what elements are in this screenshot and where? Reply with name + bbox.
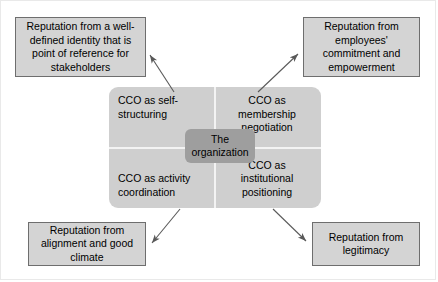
reputation-top-right-line3: commitment and: [323, 47, 401, 61]
the-organization-node: The organization: [185, 129, 255, 163]
reputation-bottom-left-line2: alignment and good: [41, 237, 133, 251]
reputation-top-right-line1: Reputation from: [323, 20, 401, 34]
reputation-bottom-right-line1: Reputation from: [329, 231, 404, 245]
quadrant-top-right-line1: CCO as: [248, 94, 285, 106]
reputation-top-left-line4: stakeholders: [27, 61, 135, 75]
organization-line2: organization: [191, 146, 248, 158]
reputation-top-left-line1: Reputation from a well-: [27, 20, 135, 34]
quadrant-top-left-line1: CCO as self-: [118, 94, 178, 106]
reputation-bottom-right-line2: legitimacy: [329, 244, 404, 258]
reputation-top-right-line4: empowerment: [323, 61, 401, 75]
reputation-box-top-right: Reputation from employees' commitment an…: [303, 17, 420, 77]
quadrant-bottom-left-line1: CCO as activity: [118, 172, 190, 184]
quadrant-top-right-line2: membership: [238, 108, 296, 120]
organization-line1: The: [211, 133, 229, 145]
quadrant-bottom-right-line3: positioning: [242, 186, 292, 198]
quadrant-top-left-line2: structuring: [118, 108, 167, 120]
reputation-top-right-line2: employees': [323, 34, 401, 48]
arrow-to-bottom-left: [152, 209, 180, 243]
quadrant-bottom-left-line2: coordination: [118, 186, 175, 198]
reputation-box-bottom-left: Reputation from alignment and good clima…: [28, 222, 146, 266]
reputation-bottom-left-line1: Reputation from: [41, 224, 133, 238]
reputation-box-top-left: Reputation from a well- defined identity…: [15, 17, 146, 77]
quadrant-bottom-right-line2: institutional: [241, 172, 294, 184]
reputation-top-left-line3: point of reference for: [27, 47, 135, 61]
reputation-bottom-left-line3: climate: [41, 251, 133, 265]
arrow-to-bottom-right: [273, 209, 306, 241]
reputation-box-bottom-right: Reputation from legitimacy: [312, 222, 420, 266]
diagram-canvas: Reputation from a well- defined identity…: [0, 0, 438, 282]
reputation-top-left-line2: defined identity that is: [27, 34, 135, 48]
